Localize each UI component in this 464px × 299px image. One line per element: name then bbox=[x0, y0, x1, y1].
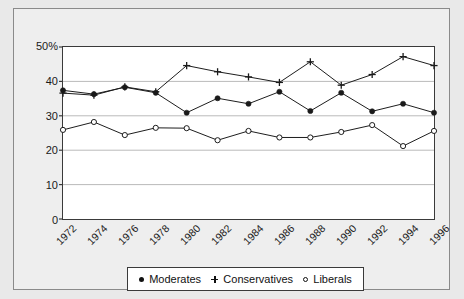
data-point-liberals bbox=[370, 123, 375, 128]
plot-area bbox=[62, 46, 435, 220]
legend-entry-liberals[interactable]: Liberals bbox=[303, 273, 352, 285]
data-point-liberals bbox=[153, 125, 158, 130]
data-point-conservatives bbox=[121, 83, 128, 90]
data-point-liberals bbox=[60, 127, 65, 132]
x-axis-tick-label: 1992 bbox=[364, 222, 389, 247]
data-point-conservatives bbox=[430, 62, 437, 69]
data-point-moderates bbox=[277, 89, 282, 94]
data-point-liberals bbox=[308, 135, 313, 140]
x-axis-tick-label: 1978 bbox=[147, 222, 172, 247]
y-axis-tick-label: 50% bbox=[36, 40, 58, 52]
data-point-moderates bbox=[400, 101, 405, 106]
y-axis-tick-label: 20 bbox=[46, 144, 58, 156]
series-line-moderates bbox=[63, 87, 434, 112]
data-point-moderates bbox=[370, 109, 375, 114]
x-axis-tick-label: 1988 bbox=[302, 222, 327, 247]
legend-label: Liberals bbox=[313, 273, 352, 285]
legend-entry-conservatives[interactable]: Conservatives bbox=[211, 273, 293, 285]
data-series-layer bbox=[63, 47, 434, 219]
data-point-liberals bbox=[184, 126, 189, 131]
filled-circle-marker-icon bbox=[139, 277, 144, 282]
data-point-liberals bbox=[122, 132, 127, 137]
series-line-liberals bbox=[63, 122, 434, 146]
chart-figure: 01020304050% 197219741976197819801982198… bbox=[0, 0, 464, 299]
data-point-conservatives bbox=[369, 71, 376, 78]
chart-legend: ModeratesConservativesLiberals bbox=[127, 267, 364, 291]
legend-entry-moderates[interactable]: Moderates bbox=[139, 273, 201, 285]
x-axis-tick-label: 1996 bbox=[426, 222, 451, 247]
x-axis-tick-label: 1974 bbox=[85, 222, 110, 247]
y-axis-tick-labels: 01020304050% bbox=[19, 46, 58, 220]
data-point-conservatives bbox=[90, 92, 97, 99]
data-point-moderates bbox=[431, 110, 436, 115]
data-point-conservatives bbox=[276, 79, 283, 86]
plus-marker-icon bbox=[211, 276, 218, 283]
data-point-liberals bbox=[91, 119, 96, 124]
data-point-liberals bbox=[246, 128, 251, 133]
x-axis-tick-label: 1976 bbox=[116, 222, 141, 247]
data-point-moderates bbox=[246, 101, 251, 106]
data-point-liberals bbox=[339, 129, 344, 134]
x-axis-tick-label: 1980 bbox=[178, 222, 203, 247]
y-axis-tick-label: 10 bbox=[46, 179, 58, 191]
legend-label: Conservatives bbox=[223, 273, 293, 285]
data-point-conservatives bbox=[400, 53, 407, 60]
data-point-conservatives bbox=[245, 73, 252, 80]
data-point-moderates bbox=[339, 90, 344, 95]
y-axis-tick-label: 30 bbox=[46, 110, 58, 122]
data-point-conservatives bbox=[214, 68, 221, 75]
x-axis-tick-label: 1984 bbox=[240, 222, 265, 247]
y-axis-tick-label: 40 bbox=[46, 75, 58, 87]
chart-frame: 01020304050% 197219741976197819801982198… bbox=[13, 8, 450, 290]
open-circle-marker-icon bbox=[303, 277, 308, 282]
data-point-liberals bbox=[400, 144, 405, 149]
x-axis-tick-labels: 1972197419761978198019821984198619881990… bbox=[62, 222, 435, 268]
data-point-liberals bbox=[277, 135, 282, 140]
y-axis-tick-label: 0 bbox=[52, 214, 58, 226]
data-point-moderates bbox=[215, 96, 220, 101]
data-point-moderates bbox=[308, 108, 313, 113]
data-point-liberals bbox=[431, 128, 436, 133]
x-axis-tick-label: 1994 bbox=[395, 222, 420, 247]
legend-label: Moderates bbox=[149, 273, 201, 285]
x-axis-tick-label: 1986 bbox=[271, 222, 296, 247]
data-point-moderates bbox=[184, 110, 189, 115]
data-point-liberals bbox=[215, 138, 220, 143]
x-axis-tick-label: 1982 bbox=[209, 222, 234, 247]
x-axis-tick-label: 1990 bbox=[333, 222, 358, 247]
